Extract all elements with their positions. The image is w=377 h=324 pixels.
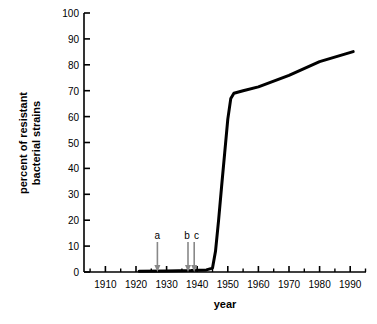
- y-tick-label: 30: [68, 189, 80, 200]
- x-tick-label: 1960: [247, 279, 270, 290]
- y-axis-title-line2: bacterial strains: [30, 101, 42, 185]
- y-tick-label: 40: [68, 163, 80, 174]
- x-axis-title: year: [214, 298, 237, 310]
- x-tick-label: 1940: [186, 279, 209, 290]
- y-tick-label: 20: [68, 215, 80, 226]
- x-tick-label: 1950: [217, 279, 240, 290]
- x-tick-label: 1930: [155, 279, 178, 290]
- chart-figure: 100 90 80 70 60 50 40 30 20 10 0: [0, 0, 377, 324]
- y-tick-label: 0: [73, 267, 79, 278]
- y-tick-label: 60: [68, 112, 80, 123]
- y-tick-label: 70: [68, 86, 80, 97]
- y-tick-label: 100: [62, 8, 79, 19]
- resistance-line-chart: 100 90 80 70 60 50 40 30 20 10 0: [0, 0, 377, 324]
- y-axis-title: percent of resistant bacterial strains: [17, 92, 42, 194]
- x-tick-label: 1910: [94, 279, 117, 290]
- x-tick-label: 1970: [278, 279, 301, 290]
- x-tick-label: 1990: [339, 279, 362, 290]
- chart-background: [0, 0, 377, 324]
- y-tick-label: 90: [68, 34, 80, 45]
- x-axis-tick-labels: 1910 1920 1930 1940 1950 1960 1970 1980 …: [94, 279, 361, 290]
- annotation-label-a: a: [155, 230, 161, 241]
- y-tick-label: 50: [68, 138, 80, 149]
- y-tick-label: 80: [68, 60, 80, 71]
- annotation-label-b: b: [184, 230, 190, 241]
- x-tick-label: 1980: [308, 279, 331, 290]
- annotation-label-c: c: [194, 230, 199, 241]
- y-axis-title-line1: percent of resistant: [17, 92, 29, 194]
- y-tick-label: 10: [68, 241, 80, 252]
- x-tick-label: 1920: [125, 279, 148, 290]
